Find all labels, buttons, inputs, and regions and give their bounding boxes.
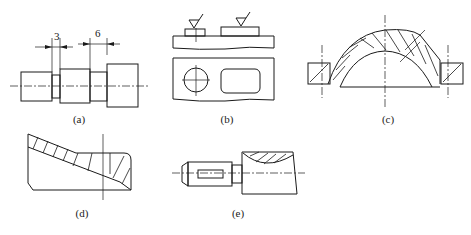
dimension-3: 3 — [54, 30, 60, 42]
caption-b: (b) — [207, 113, 247, 125]
caption-a: (a) — [59, 113, 99, 125]
caption-e: (e) — [218, 207, 258, 219]
dimension-6: 6 — [95, 27, 101, 39]
panel-e-drawing — [172, 152, 305, 194]
panel-d-drawing — [28, 134, 131, 200]
caption-c: (c) — [368, 113, 408, 125]
panel-b-drawing — [173, 12, 274, 101]
panel-c-drawing — [308, 15, 463, 108]
panel-a-drawing — [10, 38, 150, 107]
caption-d: (d) — [62, 207, 102, 219]
